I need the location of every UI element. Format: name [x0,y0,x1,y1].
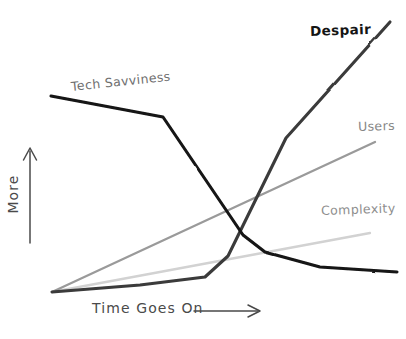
series-label-users: Users [358,118,396,134]
chart-canvas [0,0,406,339]
series-label-despair: Despair [310,21,372,39]
y-axis-label: More [5,174,21,213]
series-line-complexity [52,233,370,292]
series-line-tech-savviness [51,96,397,272]
series-label-complexity: Complexity [321,200,396,218]
x-axis-label: Time Goes On [92,300,204,316]
y-axis-arrow [24,148,37,243]
chart-container: Tech Savviness Despair Users Complexity … [0,0,406,339]
series-line-despair [52,22,390,292]
